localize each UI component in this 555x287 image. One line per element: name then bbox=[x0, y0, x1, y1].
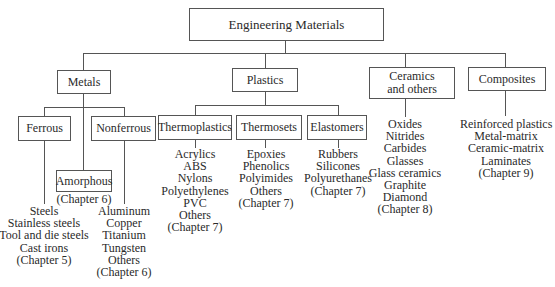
connector bbox=[83, 94, 84, 170]
list-item: Carbides bbox=[365, 142, 445, 154]
connector bbox=[83, 53, 506, 54]
list-item: Tool and die steels bbox=[0, 229, 94, 241]
node-composites: Composites bbox=[468, 67, 546, 91]
connector bbox=[505, 91, 506, 116]
list-item: Titanium bbox=[84, 229, 164, 241]
amorphous-label: Amorphous bbox=[56, 175, 113, 188]
list-item: (Chapter 7) bbox=[155, 221, 235, 233]
connector bbox=[405, 99, 406, 117]
connector bbox=[83, 53, 84, 70]
connector bbox=[124, 141, 125, 204]
composites-items: Reinforced plastics Metal-matrix Ceramic… bbox=[460, 118, 552, 179]
list-item: Cast irons bbox=[0, 242, 94, 254]
list-item: Polyimides bbox=[230, 172, 302, 184]
thermosets-items: Epoxies Phenolics Polyimides Others (Cha… bbox=[230, 148, 302, 209]
list-item: (Chapter 9) bbox=[460, 167, 552, 179]
nonferrous-label: Nonferrous bbox=[96, 122, 151, 135]
elastomers-label: Elastomers bbox=[310, 121, 363, 134]
node-ceramics-and-others: Ceramics and others bbox=[369, 67, 455, 99]
connector bbox=[44, 141, 45, 204]
list-item: Ceramic-matrix bbox=[460, 142, 552, 154]
thermoplastics-label: Thermoplastics bbox=[158, 121, 232, 134]
list-item: Nylons bbox=[155, 172, 235, 184]
list-item: (Chapter 8) bbox=[365, 203, 445, 215]
list-item: Others bbox=[230, 185, 302, 197]
thermoplastics-items: Acrylics ABS Nylons Polyethylenes PVC Ot… bbox=[155, 148, 235, 233]
node-amorphous: Amorphous bbox=[56, 170, 112, 192]
ceramics-items: Oxides Nitrides Carbides Glasses Glass c… bbox=[365, 118, 445, 216]
node-ferrous: Ferrous bbox=[18, 116, 71, 141]
node-thermoplastics: Thermoplastics bbox=[158, 115, 232, 140]
list-item: Tungsten bbox=[84, 242, 164, 254]
connector bbox=[505, 53, 506, 67]
list-item: (Chapter 6) bbox=[84, 266, 164, 278]
list-item: (Chapter 7) bbox=[230, 197, 302, 209]
connector bbox=[405, 53, 406, 67]
connector bbox=[265, 53, 266, 68]
connector bbox=[124, 107, 125, 116]
root-node-engineering-materials: Engineering Materials bbox=[189, 8, 384, 41]
metals-label: Metals bbox=[68, 76, 101, 89]
node-elastomers: Elastomers bbox=[307, 115, 367, 140]
node-plastics: Plastics bbox=[232, 68, 298, 92]
ceramics-label-line2: and others bbox=[387, 83, 437, 96]
list-item: Laminates bbox=[460, 155, 552, 167]
plastics-label: Plastics bbox=[247, 74, 284, 87]
list-item: Polyethylenes bbox=[155, 185, 235, 197]
ferrous-items: Steels Stainless steels Tool and die ste… bbox=[0, 205, 94, 266]
connector bbox=[44, 107, 45, 116]
nonferrous-items: Aluminum Copper Titanium Tungsten Others… bbox=[84, 205, 164, 278]
list-item: (Chapter 5) bbox=[0, 254, 94, 266]
list-item: Glasses bbox=[365, 155, 445, 167]
connector bbox=[285, 41, 286, 53]
thermosets-label: Thermosets bbox=[241, 121, 297, 134]
connector bbox=[195, 105, 196, 115]
connector bbox=[195, 105, 339, 106]
composites-label: Composites bbox=[479, 73, 536, 86]
node-nonferrous: Nonferrous bbox=[91, 116, 156, 141]
connector bbox=[338, 105, 339, 115]
ferrous-label: Ferrous bbox=[26, 122, 63, 135]
connector bbox=[265, 92, 266, 105]
connector bbox=[44, 107, 125, 108]
node-metals: Metals bbox=[57, 70, 111, 94]
node-thermosets: Thermosets bbox=[236, 115, 302, 140]
root-label: Engineering Materials bbox=[229, 18, 345, 31]
